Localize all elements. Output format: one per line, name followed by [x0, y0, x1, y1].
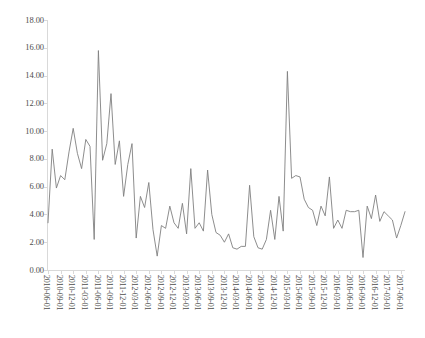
x-axis-tick-mark [161, 271, 162, 274]
x-axis-tick-mark [174, 271, 175, 274]
x-axis-tick-label: 2013-03-01 [181, 275, 190, 310]
x-axis-tick-label: 2014-03-01 [231, 275, 240, 310]
y-axis-tick-label: 18.00 [0, 16, 44, 24]
y-axis-tick-mark [44, 20, 47, 21]
x-axis-tick-label: 2016-03-01 [332, 275, 341, 310]
x-axis-tick-mark [376, 271, 377, 274]
y-axis-tick-mark [44, 214, 47, 215]
x-axis-tick-label: 2011-03-01 [80, 275, 89, 310]
x-axis-tick-mark [325, 271, 326, 274]
x-axis-tick-mark [300, 271, 301, 274]
y-axis-tick-mark [44, 48, 47, 49]
x-axis-tick-mark [136, 271, 137, 274]
x-axis-tick-label: 2013-12-01 [219, 275, 228, 310]
x-axis-tick-label: 2013-06-01 [193, 275, 202, 310]
y-axis-tick-mark [44, 131, 47, 132]
x-axis-tick-label: 2011-06-01 [93, 275, 102, 310]
y-axis-tick-label: 16.00 [0, 43, 44, 51]
x-axis-tick-label: 2010-12-01 [67, 275, 76, 310]
x-axis-tick-mark [212, 271, 213, 274]
x-axis-tick-label: 2012-09-01 [156, 275, 165, 310]
x-axis-tick-label: 2016-12-01 [370, 275, 379, 310]
x-axis-tick-label: 2013-09-01 [206, 275, 215, 310]
x-axis-tick-mark [388, 271, 389, 274]
x-axis-tick-mark [237, 271, 238, 274]
x-axis-tick-mark [73, 271, 74, 274]
y-axis-tick-mark [44, 187, 47, 188]
y-axis-tick-label: 14.00 [0, 71, 44, 79]
x-axis-tick-mark [61, 271, 62, 274]
x-axis-tick-label: 2011-12-01 [118, 275, 127, 310]
x-axis-tick-label: 2014-09-01 [256, 275, 265, 310]
x-axis-tick-label: 2016-06-01 [345, 275, 354, 310]
x-axis-tick-mark [111, 271, 112, 274]
x-axis-tick-mark [313, 271, 314, 274]
x-axis-tick-mark [275, 271, 276, 274]
x-axis-tick-mark [124, 271, 125, 274]
x-axis-tick-mark [224, 271, 225, 274]
x-axis-tick-mark [250, 271, 251, 274]
x-axis-tick-mark [363, 271, 364, 274]
x-axis-tick-mark [262, 271, 263, 274]
y-axis-tick-label: 6.00 [0, 182, 44, 190]
x-axis-tick-label: 2010-09-01 [55, 275, 64, 310]
y-axis-tick-mark [44, 270, 47, 271]
x-axis-tick-label: 2015-09-01 [307, 275, 316, 310]
x-axis-tick-mark [199, 271, 200, 274]
x-axis-tick-label: 2017-06-01 [395, 275, 404, 310]
x-axis-tick-label: 2014-12-01 [269, 275, 278, 310]
y-axis-tick-label: 2.00 [0, 238, 44, 246]
line-chart: 0.002.004.006.008.0010.0012.0014.0016.00… [0, 0, 425, 338]
y-axis-tick-label: 4.00 [0, 210, 44, 218]
x-axis-tick-label: 2014-06-01 [244, 275, 253, 310]
plot-area [48, 20, 405, 270]
x-axis-line [48, 270, 405, 271]
x-axis-tick-label: 2012-03-01 [130, 275, 139, 310]
x-axis-tick-mark [187, 271, 188, 274]
x-axis-tick-label: 2012-12-01 [168, 275, 177, 310]
data-series-line [48, 20, 405, 270]
x-axis-tick-mark [401, 271, 402, 274]
y-axis-tick-mark [44, 103, 47, 104]
x-axis-tick-label: 2015-12-01 [319, 275, 328, 310]
x-axis-tick-label: 2015-06-01 [294, 275, 303, 310]
y-axis-tick-label: 8.00 [0, 154, 44, 162]
x-axis-tick-mark [48, 271, 49, 274]
x-axis-tick-label: 2010-06-01 [42, 275, 51, 310]
x-axis-tick-mark [98, 271, 99, 274]
x-axis-tick-mark [338, 271, 339, 274]
x-axis-tick-label: 2012-06-01 [143, 275, 152, 310]
y-axis-tick-mark [44, 242, 47, 243]
y-axis-tick-label: 0.00 [0, 266, 44, 274]
y-axis-tick-mark [44, 159, 47, 160]
x-axis-tick-label: 2016-09-01 [357, 275, 366, 310]
x-axis-tick-label: 2015-03-01 [282, 275, 291, 310]
x-axis-tick-mark [149, 271, 150, 274]
y-axis-tick-label: 12.00 [0, 99, 44, 107]
y-axis-tick-mark [44, 76, 47, 77]
y-axis-tick-label: 10.00 [0, 127, 44, 135]
x-axis-tick-label: 2011-09-01 [105, 275, 114, 310]
x-axis-tick-label: 2017-03-01 [382, 275, 391, 310]
x-axis-tick-mark [350, 271, 351, 274]
x-axis-tick-mark [86, 271, 87, 274]
x-axis-tick-mark [287, 271, 288, 274]
